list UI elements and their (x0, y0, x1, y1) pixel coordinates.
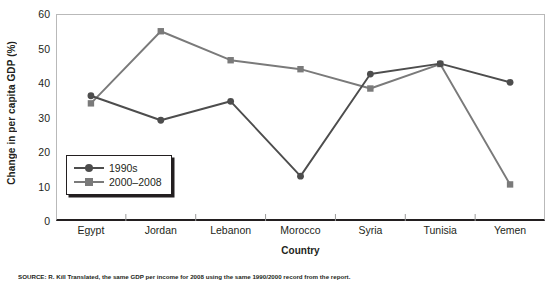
y-axis-ticks: 0102030405060 (20, 0, 50, 282)
x-axis-ticks: EgyptJordanLebanonMoroccoSyriaTunisiaYem… (56, 224, 545, 240)
data-point-marker (367, 71, 374, 78)
x-tick-label: Morocco (280, 224, 320, 237)
chart-legend: 1990s 2000–2008 (66, 155, 172, 195)
data-point-marker (507, 181, 513, 187)
data-point-marker (157, 117, 164, 124)
legend-item-1990s: 1990s (74, 161, 162, 175)
x-tick-label: Yemen (494, 224, 526, 237)
data-point-marker (88, 92, 95, 99)
legend-swatch-circle-icon (74, 162, 104, 174)
data-point-marker (227, 98, 234, 105)
x-tick-label: Tunisia (423, 224, 456, 237)
data-point-marker (227, 57, 233, 63)
y-tick-label: 50 (20, 44, 50, 54)
y-axis-title-label: Change in per capita GDP (%) (6, 41, 17, 185)
data-point-marker (88, 100, 94, 106)
y-tick-label: 10 (20, 182, 50, 192)
data-point-marker (367, 85, 373, 91)
data-point-marker (437, 60, 444, 67)
y-tick-label: 40 (20, 78, 50, 88)
x-tick-label: Syria (358, 224, 382, 237)
source-caption: SOURCE: R. Kill Translated, the same GDP… (18, 272, 538, 282)
y-tick-label: 20 (20, 147, 50, 157)
legend-swatch-square-icon (74, 176, 104, 188)
x-tick-label: Jordan (145, 224, 177, 237)
y-tick-label: 60 (20, 9, 50, 19)
data-point-marker (507, 79, 514, 86)
x-tick-label: Egypt (77, 224, 104, 237)
legend-label-1990s: 1990s (109, 162, 138, 174)
y-axis-title: Change in per capita GDP (%) (0, 0, 22, 225)
x-tick-label: Lebanon (210, 224, 251, 237)
data-point-marker (297, 66, 303, 72)
y-tick-label: 30 (20, 113, 50, 123)
x-axis-title-label: Country (281, 245, 319, 256)
chart-figure: Change in per capita GDP (%) 01020304050… (0, 0, 552, 282)
data-point-marker (158, 28, 164, 34)
legend-label-2000-2008: 2000–2008 (109, 176, 162, 188)
legend-item-2000-2008: 2000–2008 (74, 175, 162, 189)
x-axis-title: Country (56, 245, 545, 256)
y-tick-label: 0 (20, 216, 50, 226)
data-point-marker (297, 173, 304, 180)
